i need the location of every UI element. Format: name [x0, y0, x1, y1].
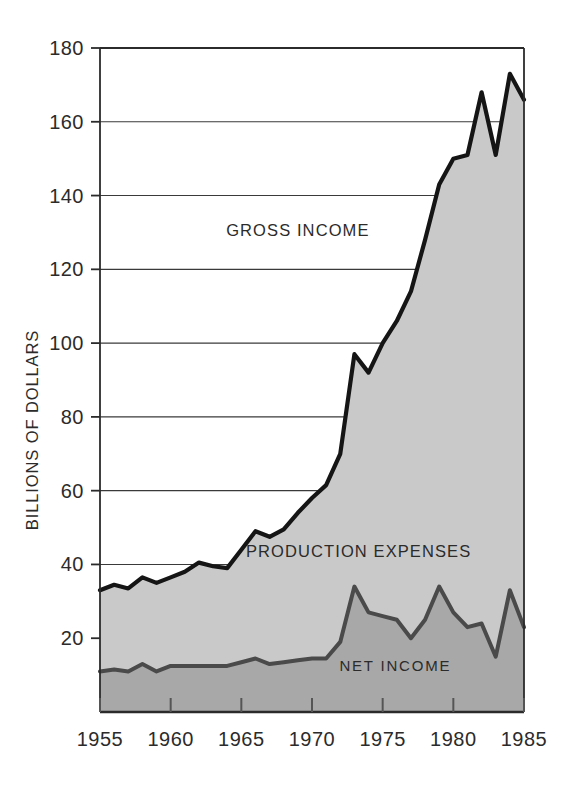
income-expenses-area-chart: 20406080100120140160180 1955196019651970… — [0, 0, 565, 793]
y-tick-label-120: 120 — [49, 258, 84, 280]
y-tick-label-60: 60 — [61, 480, 84, 502]
y-axis-title: BILLIONS OF DOLLARS — [23, 330, 41, 531]
x-tick-label-1985: 1985 — [501, 728, 548, 750]
x-tick-label-1965: 1965 — [218, 728, 265, 750]
y-tick-label-20: 20 — [61, 627, 84, 649]
y-tick-label-40: 40 — [61, 553, 84, 575]
x-tick-label-1975: 1975 — [359, 728, 406, 750]
chart-figure: 20406080100120140160180 1955196019651970… — [0, 0, 565, 793]
y-tick-label-140: 140 — [49, 185, 84, 207]
net-income-label: NET INCOME — [339, 657, 451, 674]
y-tick-label-180: 180 — [49, 37, 84, 59]
x-tick-label-1955: 1955 — [77, 728, 124, 750]
x-tick-label-1970: 1970 — [289, 728, 336, 750]
y-tick-label-100: 100 — [49, 332, 84, 354]
x-tick-label-1980: 1980 — [430, 728, 477, 750]
y-tick-label-80: 80 — [61, 406, 84, 428]
x-tick-label-1960: 1960 — [147, 728, 194, 750]
y-tick-label-160: 160 — [49, 111, 84, 133]
gross-income-label: GROSS INCOME — [226, 221, 369, 239]
production-expenses-label: PRODUCTION EXPENSES — [246, 542, 471, 560]
